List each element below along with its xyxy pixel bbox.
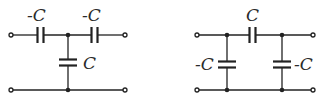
label-left-cap: -C: [27, 5, 46, 25]
label-shunt-cap: C: [83, 53, 96, 73]
t-network-circuit: [9, 27, 127, 92]
terminal: [9, 33, 13, 37]
label-right-cap: -C: [82, 5, 101, 25]
label-right-shunt-cap: -C: [294, 54, 313, 74]
label-left-shunt-cap: -C: [195, 54, 214, 74]
label-series-cap: C: [246, 5, 259, 25]
